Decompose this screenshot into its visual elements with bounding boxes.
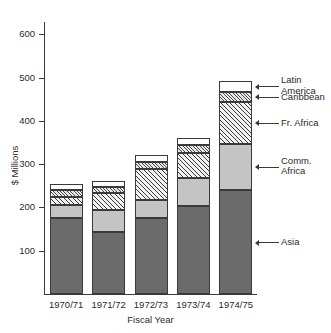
bar-segment-caribbean (92, 187, 125, 193)
y-tick-200 (39, 207, 44, 208)
bar-segment-comm-africa (219, 144, 252, 189)
x-axis-line (44, 294, 257, 295)
y-tick-100 (39, 251, 44, 252)
callout-arrow-comm (255, 164, 259, 170)
bar-segment-latin-america (92, 181, 125, 186)
callout-arrow-fr_africa (255, 120, 259, 126)
y-tick-label-600: 600 (4, 29, 35, 38)
callout-leader-caribbean (258, 97, 279, 98)
y-tick-label-200: 200 (4, 202, 35, 211)
bar-segment-caribbean (219, 92, 252, 102)
bar-segment-asia (135, 218, 168, 294)
y-axis-line (44, 22, 45, 295)
bar-segment-latin-america (219, 81, 252, 92)
y-tick-300 (39, 164, 44, 165)
bar-segment-caribbean (50, 190, 83, 198)
bar-segment-comm-africa (92, 210, 125, 232)
callout-label-caribbean: Caribbean (281, 92, 325, 103)
bar-segment-fr-africa (219, 102, 252, 144)
bar-segment-fr-africa (50, 197, 83, 205)
bar-segment-caribbean (135, 162, 168, 170)
bar-segment-fr-africa (177, 153, 210, 178)
x-axis-title: Fiscal Year (44, 314, 257, 325)
bar-segment-comm-africa (177, 178, 210, 206)
callout-label-asia: Asia (281, 237, 299, 248)
stacked-bar-chart: $ Millions Fiscal Year 10020030040050060… (0, 0, 331, 333)
y-tick-600 (39, 34, 44, 35)
callout-leader-comm (258, 167, 279, 168)
callout-arrow-asia (255, 240, 259, 246)
bar-segment-fr-africa (135, 169, 168, 199)
bar-1970-71 (50, 184, 83, 294)
y-tick-400 (39, 121, 44, 122)
bar-segment-fr-africa (92, 193, 125, 210)
bar-1974-75 (219, 81, 252, 294)
bar-segment-asia (219, 190, 252, 294)
bar-segment-comm-africa (135, 200, 168, 219)
callout-leader-asia (258, 242, 279, 243)
callout-arrow-caribbean (255, 94, 259, 100)
callout-label-fr_africa: Fr. Africa (281, 118, 318, 129)
y-tick-label-100: 100 (4, 246, 35, 255)
bar-segment-asia (50, 218, 83, 294)
bar-1971-72 (92, 181, 125, 294)
bar-segment-asia (177, 206, 210, 294)
bar-segment-comm-africa (50, 205, 83, 218)
bar-segment-latin-america (50, 184, 83, 190)
callout-leader-latin (258, 86, 279, 87)
bar-segment-asia (92, 232, 125, 294)
y-tick-500 (39, 78, 44, 79)
bar-segment-caribbean (177, 145, 210, 152)
y-tick-label-500: 500 (4, 73, 35, 82)
bar-segment-latin-america (135, 155, 168, 162)
y-tick-label-400: 400 (4, 116, 35, 125)
bar-1973-74 (177, 138, 210, 294)
callout-arrow-latin (255, 84, 259, 90)
callout-leader-fr_africa (258, 123, 279, 124)
callout-label-comm: Comm. Africa (281, 156, 312, 177)
x-category-label-1974-75: 1974/75 (211, 299, 261, 310)
y-tick-label-300: 300 (4, 159, 35, 168)
bar-segment-latin-america (177, 138, 210, 146)
bar-1972-73 (135, 155, 168, 294)
